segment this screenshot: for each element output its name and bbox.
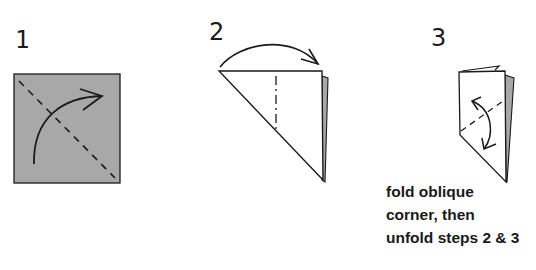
step-3-figure [459, 66, 514, 182]
caption-line-1: fold oblique [386, 180, 536, 203]
step-1-figure [14, 74, 120, 183]
arched-fold-arrow-icon [220, 45, 318, 67]
front-panel [459, 71, 506, 182]
step-3-caption: fold oblique corner, then unfold steps 2… [386, 180, 536, 249]
origami-diagram: 1 2 3 fold oblique [0, 0, 536, 270]
step-2-figure [219, 45, 328, 182]
paper-triangle [219, 71, 323, 180]
top-folded-tab [462, 66, 499, 71]
caption-line-2: corner, then [386, 203, 536, 226]
caption-line-3: unfold steps 2 & 3 [386, 226, 536, 249]
